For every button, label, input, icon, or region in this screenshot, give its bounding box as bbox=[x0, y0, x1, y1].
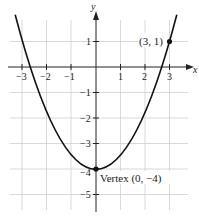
x-tick-label: 3 bbox=[167, 71, 172, 82]
y-axis-label: y bbox=[90, 1, 96, 12]
x-tick-label: −1 bbox=[64, 71, 75, 82]
x-tick-label: −2 bbox=[40, 71, 51, 82]
y-tick-label: −3 bbox=[80, 138, 91, 149]
y-axis-arrow-icon bbox=[93, 11, 99, 20]
y-tick-label: −2 bbox=[80, 113, 91, 124]
y-tick-label: 1 bbox=[86, 36, 91, 47]
point-3-1 bbox=[167, 39, 172, 44]
x-tick-label: 2 bbox=[142, 71, 147, 82]
vertex-label: Vertex (0, −4) bbox=[100, 172, 162, 185]
x-tick-label: 1 bbox=[118, 71, 123, 82]
point-label: (3, 1) bbox=[139, 35, 163, 48]
y-tick-label: −1 bbox=[80, 87, 91, 98]
parabola-chart: −3 −2 −1 1 2 3 1 −1 −2 −3 −4 −5 y x (3, … bbox=[0, 0, 199, 218]
y-tick-label: −5 bbox=[80, 189, 91, 200]
y-tick-labels: 1 −1 −2 −3 −4 −5 bbox=[80, 36, 91, 200]
x-tick-labels: −3 −2 −1 1 2 3 bbox=[16, 71, 172, 82]
x-axis-label: x bbox=[192, 64, 198, 75]
vertex-point bbox=[93, 166, 98, 171]
x-tick-label: −3 bbox=[16, 71, 27, 82]
